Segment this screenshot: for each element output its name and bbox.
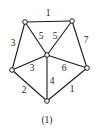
edge-B-C xyxy=(47,21,72,55)
vertex-A xyxy=(23,20,28,25)
edge-weight-label: 1 xyxy=(46,8,51,18)
vertex-C xyxy=(45,53,50,58)
vertex-D xyxy=(10,68,15,73)
edge-D-F xyxy=(12,70,47,101)
graph-diagram: 1355736421 (1) xyxy=(0,0,97,138)
edge-weight-label: 3 xyxy=(30,63,35,73)
vertex-B xyxy=(70,19,75,24)
edge-A-B xyxy=(25,21,72,22)
edge-weight-label: 5 xyxy=(53,31,58,41)
edge-weight-label: 6 xyxy=(62,63,67,73)
edge-weight-label: 4 xyxy=(50,76,55,86)
vertex-F xyxy=(45,99,50,104)
edge-A-C xyxy=(25,22,47,55)
edge-weight-label: 2 xyxy=(22,85,27,95)
edge-weight-label: 1 xyxy=(70,84,75,94)
edge-weight-label: 7 xyxy=(84,35,89,45)
edge-weight-label: 3 xyxy=(11,38,16,48)
edge-weight-label: 5 xyxy=(39,31,44,41)
edge-C-E xyxy=(47,55,87,68)
vertex-E xyxy=(85,66,90,71)
figure-caption: (1) xyxy=(41,115,52,126)
